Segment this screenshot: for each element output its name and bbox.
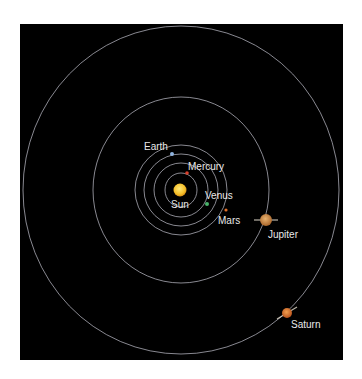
earth-icon [170,152,174,156]
earth-label: Earth [144,141,168,152]
saturn-label: Saturn [291,319,320,330]
jupiter-icon [260,214,272,226]
jupiter-label: Jupiter [268,229,299,240]
mars-icon [224,208,227,211]
mercury-label: Mercury [188,161,224,172]
mars-label: Mars [218,215,240,226]
solar-system-diagram: SunMercuryVenusEarthMarsJupiterSaturn [0,0,362,379]
sun-label: Sun [171,199,189,210]
sun-body [174,184,187,197]
saturn-icon [282,308,292,318]
venus-label: Venus [205,190,233,201]
earth-body [170,152,174,156]
sun-icon [174,184,187,197]
mars-body [224,208,227,211]
diagram-canvas: SunMercuryVenusEarthMarsJupiterSaturn [0,0,362,379]
venus-body [205,202,209,206]
venus-icon [205,202,209,206]
